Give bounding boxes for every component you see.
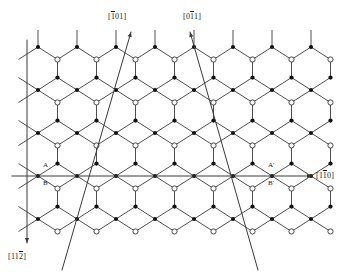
lattice-bond (58, 133, 78, 145)
lattice-bond (253, 219, 273, 231)
lattice-bond (292, 47, 312, 59)
atom-open (172, 186, 177, 191)
lattice-bond (97, 78, 117, 90)
atom-filled (36, 131, 40, 135)
lattice-bond (214, 90, 234, 102)
lattice-bond (233, 90, 253, 102)
diagonal-axis-101bar-arrowhead (128, 32, 132, 37)
lattice-bond (77, 121, 97, 133)
lattice-bond (194, 90, 214, 102)
lattice-bond (292, 78, 312, 90)
lattice-bond (77, 47, 97, 59)
lattice-bond (155, 121, 175, 133)
atom-open (172, 100, 177, 105)
atom-filled (94, 204, 98, 208)
lattice-bond (136, 133, 156, 145)
atom-filled (270, 45, 274, 49)
lattice-bond (155, 207, 175, 219)
lattice-bond (292, 176, 312, 188)
lattice-bond (292, 219, 312, 231)
lattice-bond (272, 90, 292, 102)
lattice-bond (116, 133, 136, 145)
atom-filled (231, 45, 235, 49)
axis-label-01bar1: [011] (183, 12, 201, 21)
lattice-bond (38, 78, 58, 90)
lattice-bond (97, 47, 117, 59)
lattice-bond (194, 133, 214, 145)
lattice-bond (233, 47, 253, 59)
atom-open (211, 229, 216, 234)
lattice-bond (214, 121, 234, 133)
lattice-bond (136, 47, 156, 59)
atom-filled (211, 75, 215, 79)
lattice-bond (272, 164, 292, 176)
atom-open (328, 186, 333, 191)
lattice-bond (272, 176, 292, 188)
lattice-bond (136, 78, 156, 90)
atom-open (289, 186, 294, 191)
lattice-bond (253, 133, 273, 145)
atom-open (289, 229, 294, 234)
atom-filled (114, 131, 118, 135)
atom-filled (270, 131, 274, 135)
axis-label-112bar: [112] (8, 252, 26, 261)
lattice-bond (155, 219, 175, 231)
lattice-bond (116, 121, 136, 133)
lattice-bond (38, 90, 58, 102)
atom-open (211, 57, 216, 62)
lattice-bond (155, 90, 175, 102)
lattice-bond (272, 47, 292, 59)
lattice-bond (233, 219, 253, 231)
lattice-bond (136, 176, 156, 188)
atom-open (55, 229, 60, 234)
lattice-bond (253, 90, 273, 102)
atom-filled (289, 75, 293, 79)
lattice-bond (214, 133, 234, 145)
atom-open (211, 186, 216, 191)
atom-open (172, 229, 177, 234)
lattice-bond (155, 133, 175, 145)
lattice-bond (194, 164, 214, 176)
lattice-bond (292, 133, 312, 145)
atom-filled (231, 131, 235, 135)
atom-filled (55, 204, 59, 208)
atom-filled (114, 45, 118, 49)
lattice-bond (233, 133, 253, 145)
atom-open (328, 229, 333, 234)
lattice-bond (116, 90, 136, 102)
atom-filled (250, 161, 254, 165)
lattice-bond (214, 164, 234, 176)
lattice-bond (311, 47, 331, 59)
atom-filled (153, 217, 157, 221)
atom-filled (231, 88, 235, 92)
atom-filled (114, 217, 118, 221)
lattice-bond (155, 78, 175, 90)
atom-filled (172, 75, 176, 79)
atom-filled (172, 204, 176, 208)
atom-open (133, 186, 138, 191)
lattice-bond (272, 219, 292, 231)
atom-filled (153, 88, 157, 92)
atom-filled (133, 75, 137, 79)
atom-filled (153, 131, 157, 135)
lattice-bond (233, 164, 253, 176)
lattice-bond (194, 219, 214, 231)
lattice-bond (38, 207, 58, 219)
atom-filled (133, 118, 137, 122)
lattice-bond (272, 121, 292, 133)
atom-open (55, 100, 60, 105)
lattice-diagram (0, 0, 354, 277)
atom-filled (309, 217, 313, 221)
lattice-bond (19, 133, 39, 145)
atom-filled (270, 217, 274, 221)
lattice-bond (116, 78, 136, 90)
atom-filled (55, 161, 59, 165)
lattice-bond (292, 207, 312, 219)
lattice-bond (233, 78, 253, 90)
lattice-bond (175, 121, 195, 133)
lattice-bond (214, 47, 234, 59)
atom-filled (289, 161, 293, 165)
atom-filled (94, 118, 98, 122)
atom-filled (328, 161, 332, 165)
lattice-bond (136, 121, 156, 133)
